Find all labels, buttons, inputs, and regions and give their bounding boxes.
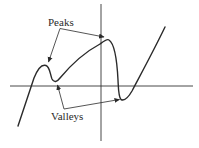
valleys-label: Valleys: [51, 110, 83, 122]
peaks-label: Peaks: [48, 16, 74, 28]
valleys-arrow-right: [64, 100, 120, 110]
function-graph-diagram: Peaks Valleys: [0, 0, 199, 148]
peaks-arrow-right: [60, 29, 104, 38]
function-curve: [18, 27, 165, 126]
peaks-arrow-left: [49, 29, 61, 63]
valleys-arrow-left: [58, 85, 65, 109]
